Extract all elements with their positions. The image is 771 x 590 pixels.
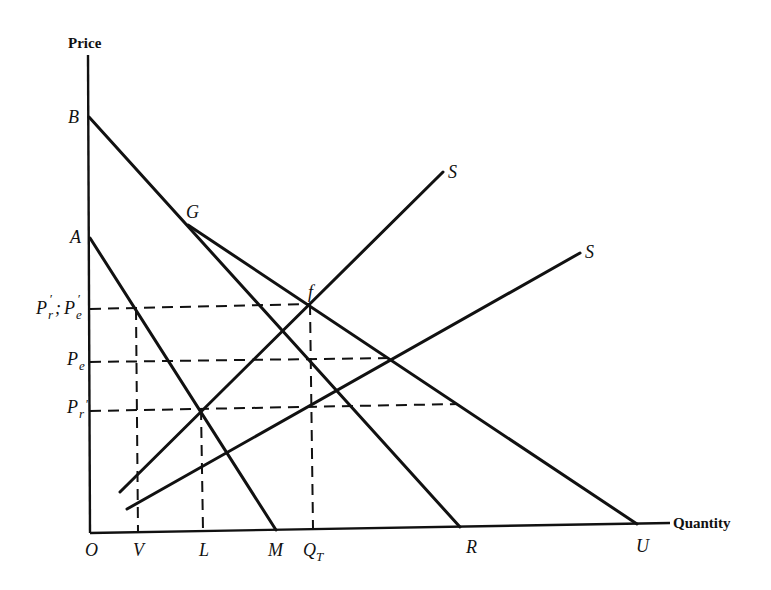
dashed-quantity-QT xyxy=(310,304,313,528)
supply-curve-lower xyxy=(127,253,580,509)
svg-text:P: P xyxy=(35,298,47,318)
label-S-lower: S xyxy=(585,242,594,262)
dashed-price-Pr xyxy=(90,404,458,411)
svg-text:T: T xyxy=(316,549,324,564)
label-A: A xyxy=(69,227,82,247)
svg-text:P: P xyxy=(66,349,78,369)
x-axis xyxy=(90,523,670,533)
demand-curve-GU xyxy=(188,225,637,524)
label-Pr-prime-Pe-prime: P r ′ ; P e ′ xyxy=(35,291,82,322)
supply-demand-diagram: Price Quantity B A P r ′ ; P e ′ P e P r… xyxy=(0,0,771,590)
supply-curve-upper xyxy=(120,172,443,492)
dashed-quantity-L xyxy=(201,409,203,530)
label-B: B xyxy=(68,107,79,127)
label-M: M xyxy=(267,540,284,560)
label-U: U xyxy=(636,536,650,556)
y-axis-title: Price xyxy=(68,35,102,51)
label-QT: Q T xyxy=(303,540,324,564)
label-R: R xyxy=(465,537,477,557)
svg-text:e: e xyxy=(76,307,82,322)
svg-text:P: P xyxy=(66,397,78,417)
label-G: G xyxy=(186,202,199,222)
label-Pr: P r ' xyxy=(66,396,88,421)
svg-text:Q: Q xyxy=(303,540,316,560)
svg-text:': ' xyxy=(85,396,88,411)
label-V: V xyxy=(133,540,146,560)
svg-text:′: ′ xyxy=(77,291,80,306)
demand-curve-AM xyxy=(90,238,276,530)
svg-text:r: r xyxy=(48,307,54,322)
svg-text:P: P xyxy=(63,298,75,318)
svg-text:e: e xyxy=(79,358,85,373)
dashed-price-Pe xyxy=(90,358,392,362)
label-S-upper: S xyxy=(448,162,457,182)
y-axis xyxy=(88,55,90,533)
label-origin-O: O xyxy=(85,540,98,560)
dashed-quantity-V xyxy=(136,309,138,531)
svg-text:′: ′ xyxy=(49,291,52,306)
label-Pe: P e xyxy=(66,349,85,373)
label-L: L xyxy=(198,540,209,560)
svg-text:;: ; xyxy=(55,298,61,318)
x-axis-title: Quantity xyxy=(673,515,731,531)
dashed-price-Pr-prime-Pe-prime xyxy=(90,304,310,309)
